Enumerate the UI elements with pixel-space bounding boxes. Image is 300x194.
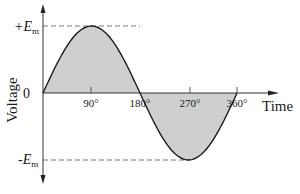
x-axis-arrow-icon: [268, 91, 279, 96]
x-tick-label-90: 90°: [83, 97, 98, 109]
x-tick-label-270: 270°: [180, 97, 201, 109]
y-tick-label-zero: 0: [23, 86, 30, 101]
y-axis-down-arrow-icon: [41, 175, 46, 184]
y-axis-label: Voltage: [4, 77, 20, 123]
y-tick-label-negative-peak: -Em: [18, 152, 38, 169]
sine-wave-chart: 90° 180° 270° 360° Time Voltage 0 +Em -E…: [0, 0, 300, 194]
y-axis-up-arrow-icon: [41, 4, 46, 13]
x-tick-label-360: 360°: [227, 97, 248, 109]
x-axis-label: Time: [262, 98, 293, 114]
x-tick-label-180: 180°: [130, 97, 151, 109]
y-tick-label-positive-peak: +Em: [14, 19, 39, 36]
